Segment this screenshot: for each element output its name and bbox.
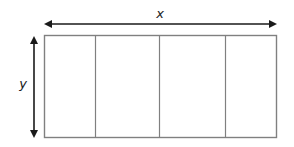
outer-rectangle [45, 36, 277, 138]
width-label: x [155, 6, 164, 21]
rectangle-dimension-diagram: x y [0, 0, 294, 147]
height-label: y [18, 76, 27, 91]
